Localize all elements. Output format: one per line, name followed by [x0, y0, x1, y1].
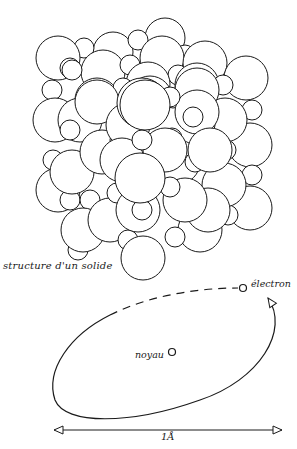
electron-dot: [240, 285, 247, 292]
solid-caption: structure d'un solide: [3, 260, 113, 271]
diagram-canvas: [0, 0, 297, 449]
nucleus-dot: [169, 349, 176, 356]
nucleus-label: noyau: [135, 349, 164, 360]
solid-sphere-cluster: [33, 18, 272, 280]
electron-label: électron: [251, 278, 291, 289]
scale-label: 1Å: [161, 431, 175, 442]
orbit-dashed-arc: [110, 288, 238, 315]
